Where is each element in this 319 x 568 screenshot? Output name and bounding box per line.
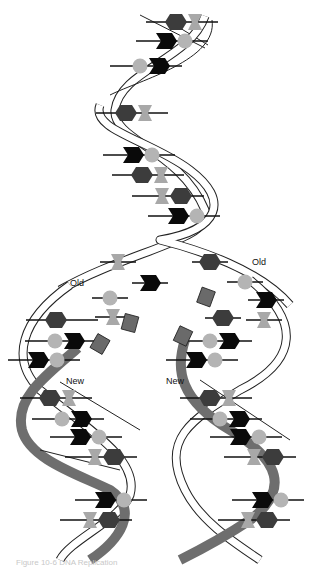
base-pair	[146, 14, 218, 30]
circle-base-icon	[48, 334, 63, 349]
circle-base-icon	[238, 275, 253, 290]
circle-base-icon	[92, 430, 107, 445]
circle-base-icon	[178, 34, 193, 49]
free-nucleotide-icon	[197, 287, 216, 307]
circle-base-icon	[117, 493, 132, 508]
unpaired-base	[132, 275, 168, 291]
base-pair	[210, 429, 282, 445]
base-pair	[25, 333, 97, 349]
circle-base-icon	[145, 148, 160, 163]
circle-base-icon	[252, 430, 267, 445]
circle-base-icon	[55, 412, 70, 427]
dna-replication-diagram: Old Old New New Figure 10-6 DNA Replicat…	[0, 0, 319, 568]
dna-helix-illustration	[0, 0, 319, 568]
hexagon-base-icon	[131, 167, 153, 183]
circle-base-icon	[50, 353, 65, 368]
circle-base-icon	[213, 412, 228, 427]
hexagon-base-icon	[212, 310, 234, 326]
hexagon-base-icon	[170, 188, 192, 204]
unpaired-base	[205, 310, 241, 326]
circle-base-icon	[274, 493, 289, 508]
hexagon-base-icon	[165, 14, 187, 30]
base-pairs	[8, 14, 304, 528]
free-nucleotide-icon	[173, 326, 192, 346]
circle-base-icon	[103, 291, 118, 306]
circle-base-icon	[190, 209, 205, 224]
circle-base-icon	[203, 334, 218, 349]
figure-caption: Figure 10-6 DNA Replication	[16, 558, 117, 567]
hexagon-base-icon	[45, 312, 67, 328]
circle-base-icon	[133, 59, 148, 74]
label-old-left: Old	[70, 279, 84, 288]
base-pair	[232, 492, 304, 508]
base-pair	[75, 492, 147, 508]
unpaired-base	[92, 291, 128, 306]
circle-base-icon	[208, 353, 223, 368]
label-new-right: New	[166, 377, 184, 386]
label-new-left: New	[66, 377, 84, 386]
free-nucleotide-icon	[90, 334, 110, 355]
label-old-right: Old	[252, 258, 266, 267]
